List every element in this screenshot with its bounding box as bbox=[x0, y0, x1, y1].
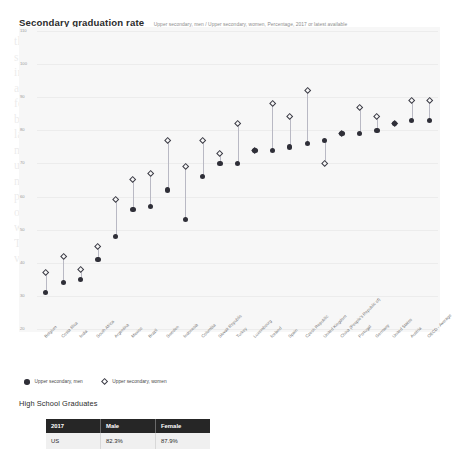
y-axis-tick-label: 80 bbox=[20, 128, 35, 132]
data-point-women[interactable] bbox=[373, 113, 381, 121]
connector-line bbox=[290, 117, 291, 147]
data-point-men[interactable] bbox=[43, 290, 48, 295]
data-point-women[interactable] bbox=[164, 136, 172, 144]
gridline bbox=[37, 197, 438, 198]
data-point-men[interactable] bbox=[113, 234, 118, 239]
gridline bbox=[37, 97, 438, 98]
filled-circle-icon bbox=[24, 379, 30, 385]
connector-line bbox=[203, 140, 204, 176]
data-point-women[interactable] bbox=[303, 87, 311, 95]
table-cell-male: 82.3% bbox=[101, 433, 156, 449]
data-point-women[interactable] bbox=[146, 170, 154, 178]
data-point-men[interactable] bbox=[322, 138, 327, 143]
table-cell-female: 87.9% bbox=[156, 433, 211, 449]
data-point-men[interactable] bbox=[200, 174, 205, 179]
data-point-women[interactable] bbox=[181, 163, 189, 171]
y-axis-tick-label: 100 bbox=[20, 62, 35, 66]
y-axis-tick-label: 70 bbox=[20, 161, 35, 165]
connector-line bbox=[238, 124, 239, 164]
data-point-women[interactable] bbox=[286, 113, 294, 121]
y-axis-tick-label: 40 bbox=[20, 261, 35, 265]
data-point-women[interactable] bbox=[269, 100, 277, 108]
connector-line bbox=[150, 173, 151, 206]
data-point-men[interactable] bbox=[235, 161, 240, 166]
data-point-men[interactable] bbox=[270, 148, 275, 153]
legend-item-women[interactable]: Upper secondary, women bbox=[102, 379, 167, 384]
hollow-diamond-icon bbox=[101, 378, 108, 385]
data-point-women[interactable] bbox=[42, 269, 50, 277]
y-axis-tick-label: 90 bbox=[20, 95, 35, 99]
data-point-women[interactable] bbox=[356, 103, 364, 111]
legend-label-men: Upper secondary, men bbox=[35, 379, 83, 384]
plot-area: 2030405060708090100110 bbox=[37, 27, 438, 332]
table-header-male: Male bbox=[101, 419, 156, 433]
legend-item-men[interactable]: Upper secondary, men bbox=[24, 379, 83, 385]
data-point-women[interactable] bbox=[129, 176, 137, 184]
y-axis-tick-label: 50 bbox=[20, 228, 35, 232]
data-point-men[interactable] bbox=[217, 161, 222, 166]
connector-line bbox=[185, 167, 186, 220]
connector-line bbox=[307, 91, 308, 144]
data-point-men[interactable] bbox=[305, 141, 310, 146]
y-axis-tick-label: 30 bbox=[20, 294, 35, 298]
data-point-men[interactable] bbox=[61, 280, 66, 285]
data-point-men[interactable] bbox=[148, 204, 153, 209]
data-point-men[interactable] bbox=[374, 128, 379, 133]
data-point-women[interactable] bbox=[199, 136, 207, 144]
table-header-row: 2017 Male Female bbox=[46, 419, 210, 433]
data-point-men[interactable] bbox=[95, 257, 100, 262]
data-point-men[interactable] bbox=[357, 131, 362, 136]
secondary-graduation-rate-chart: 2030405060708090100110 bbox=[19, 27, 440, 332]
legend-label-women: Upper secondary, women bbox=[112, 379, 166, 384]
connector-line bbox=[168, 140, 169, 190]
connector-line bbox=[272, 104, 273, 150]
table-title: High School Graduates bbox=[19, 399, 98, 408]
data-point-men[interactable] bbox=[287, 144, 292, 149]
table-header-female: Female bbox=[156, 419, 211, 433]
connector-line bbox=[133, 180, 134, 210]
data-point-women[interactable] bbox=[94, 242, 102, 250]
data-point-women[interactable] bbox=[321, 160, 329, 168]
gridline bbox=[37, 230, 438, 231]
data-point-women[interactable] bbox=[59, 252, 67, 260]
data-point-men[interactable] bbox=[339, 131, 344, 136]
y-axis-tick-label: 110 bbox=[20, 29, 35, 33]
y-axis-tick-label: 60 bbox=[20, 195, 35, 199]
y-axis-tick-label: 20 bbox=[20, 327, 35, 331]
gridline bbox=[37, 64, 438, 65]
data-point-men[interactable] bbox=[252, 148, 257, 153]
data-point-women[interactable] bbox=[216, 150, 224, 158]
data-point-men[interactable] bbox=[78, 277, 83, 282]
data-point-women[interactable] bbox=[234, 120, 242, 128]
table-header-year: 2017 bbox=[46, 419, 101, 433]
data-point-women[interactable] bbox=[77, 266, 85, 274]
data-point-men[interactable] bbox=[183, 217, 188, 222]
connector-line bbox=[116, 200, 117, 236]
data-point-men[interactable] bbox=[130, 207, 135, 212]
data-point-men[interactable] bbox=[165, 187, 170, 192]
table-cell-country: US bbox=[46, 433, 101, 449]
table-row: US 82.3% 87.9% bbox=[46, 433, 210, 449]
gridline bbox=[37, 263, 438, 264]
chart-legend: Upper secondary, men Upper secondary, wo… bbox=[24, 379, 185, 385]
high-school-graduates-table: 2017 Male Female US 82.3% 87.9% bbox=[46, 419, 210, 449]
data-point-men[interactable] bbox=[409, 118, 414, 123]
gridline bbox=[37, 31, 438, 32]
data-point-men[interactable] bbox=[427, 118, 432, 123]
